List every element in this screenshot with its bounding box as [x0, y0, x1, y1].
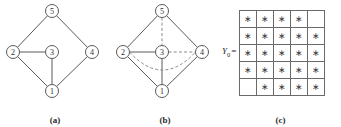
panel-c-matrix: Y0= ∗∗∗∗∗∗∗∗∗∗∗∗∗∗∗∗∗∗∗∗∗∗∗	[220, 0, 341, 105]
matrix-star: ∗	[312, 49, 320, 58]
matrix-star: ∗	[278, 66, 286, 75]
graph-edge	[57, 16, 88, 48]
graph-b-svg: 52341	[110, 0, 220, 105]
matrix-cell-r2c4: ∗	[291, 28, 308, 45]
matrix-star: ∗	[244, 15, 252, 24]
graph-node-label-3: 3	[50, 48, 54, 57]
graph-edge	[57, 57, 88, 87]
matrix-star: ∗	[261, 32, 269, 41]
matrix-star: ∗	[312, 66, 320, 75]
graph-node-label-4: 4	[200, 48, 204, 57]
matrix-star: ∗	[312, 32, 320, 41]
graph-node-label-1: 1	[160, 87, 164, 96]
matrix-equals: =	[231, 46, 236, 56]
matrix-cell-r1c2: ∗	[257, 11, 274, 28]
matrix-cell-r4c2: ∗	[257, 62, 274, 79]
graph-edge	[17, 16, 47, 48]
matrix-star: ∗	[278, 49, 286, 58]
matrix-cell-r2c1: ∗	[240, 28, 257, 45]
matrix-cell-r2c3: ∗	[274, 28, 291, 45]
matrix-star: ∗	[244, 32, 252, 41]
matrix-star: ∗	[295, 49, 303, 58]
matrix-cell-r2c5: ∗	[308, 28, 325, 45]
matrix-star: ∗	[278, 15, 286, 24]
caption-c: (c)	[220, 115, 341, 125]
matrix-cell-r1c4: ∗	[291, 11, 308, 28]
matrix-cell-r5c3: ∗	[274, 79, 291, 96]
matrix-cell-r5c4: ∗	[291, 79, 308, 96]
matrix-star: ∗	[261, 49, 269, 58]
matrix-cell-r5c1	[240, 79, 257, 96]
matrix-star: ∗	[261, 15, 269, 24]
matrix-star: ∗	[261, 83, 269, 92]
graph-edge	[128, 57, 158, 87]
graph-node-label-2: 2	[121, 48, 125, 57]
matrix-star: ∗	[295, 32, 303, 41]
matrix-cell-r1c5	[308, 11, 325, 28]
matrix-cell-r3c1: ∗	[240, 45, 257, 62]
graph-edge	[18, 57, 48, 87]
matrix-cell-r5c5: ∗	[308, 79, 325, 96]
matrix-star: ∗	[295, 66, 303, 75]
caption-b: (b)	[110, 115, 220, 125]
matrix-cell-r1c3: ∗	[274, 11, 291, 28]
graph-node-label-5: 5	[160, 7, 164, 16]
graph-node-label-5: 5	[50, 7, 54, 16]
matrix-star: ∗	[244, 66, 252, 75]
graph-edge	[167, 16, 198, 48]
matrix-cell-r4c3: ∗	[274, 62, 291, 79]
graph-node-label-1: 1	[50, 87, 54, 96]
matrix-cell-r1c1: ∗	[240, 11, 257, 28]
matrix-cell-r3c3: ∗	[274, 45, 291, 62]
graph-node-label-4: 4	[90, 48, 94, 57]
matrix-cell-r5c2: ∗	[257, 79, 274, 96]
caption-a: (a)	[0, 115, 110, 125]
matrix-cell-r4c1: ∗	[240, 62, 257, 79]
matrix-cell-r3c4: ∗	[291, 45, 308, 62]
graph-a-svg: 52341	[0, 0, 110, 105]
graph-edge	[167, 57, 198, 87]
panel-a-graph: 52341	[0, 0, 110, 105]
matrix-wrapper: Y0= ∗∗∗∗∗∗∗∗∗∗∗∗∗∗∗∗∗∗∗∗∗∗∗	[220, 0, 341, 105]
graph-node-label-2: 2	[11, 48, 15, 57]
matrix-cell-r3c5: ∗	[308, 45, 325, 62]
figure-container: 52341 52341 Y0= ∗∗∗∗∗∗∗∗∗∗∗∗∗∗∗∗∗∗∗∗∗∗∗ …	[0, 0, 341, 127]
matrix-star: ∗	[295, 83, 303, 92]
matrix-label: Y0=	[222, 47, 236, 58]
graph-node-label-3: 3	[160, 48, 164, 57]
graph-edge	[127, 16, 157, 48]
matrix-star: ∗	[261, 66, 269, 75]
matrix-cell-r2c2: ∗	[257, 28, 274, 45]
panel-b-graph: 52341	[110, 0, 220, 105]
matrix-star: ∗	[295, 15, 303, 24]
matrix-star: ∗	[278, 83, 286, 92]
matrix-star: ∗	[278, 32, 286, 41]
matrix-cell-r4c4: ∗	[291, 62, 308, 79]
matrix-subscript: 0	[227, 51, 230, 58]
matrix-cell-r3c2: ∗	[257, 45, 274, 62]
matrix-star: ∗	[312, 83, 320, 92]
matrix-grid: ∗∗∗∗∗∗∗∗∗∗∗∗∗∗∗∗∗∗∗∗∗∗∗	[239, 10, 325, 96]
matrix-cell-r4c5: ∗	[308, 62, 325, 79]
matrix-star: ∗	[244, 49, 252, 58]
